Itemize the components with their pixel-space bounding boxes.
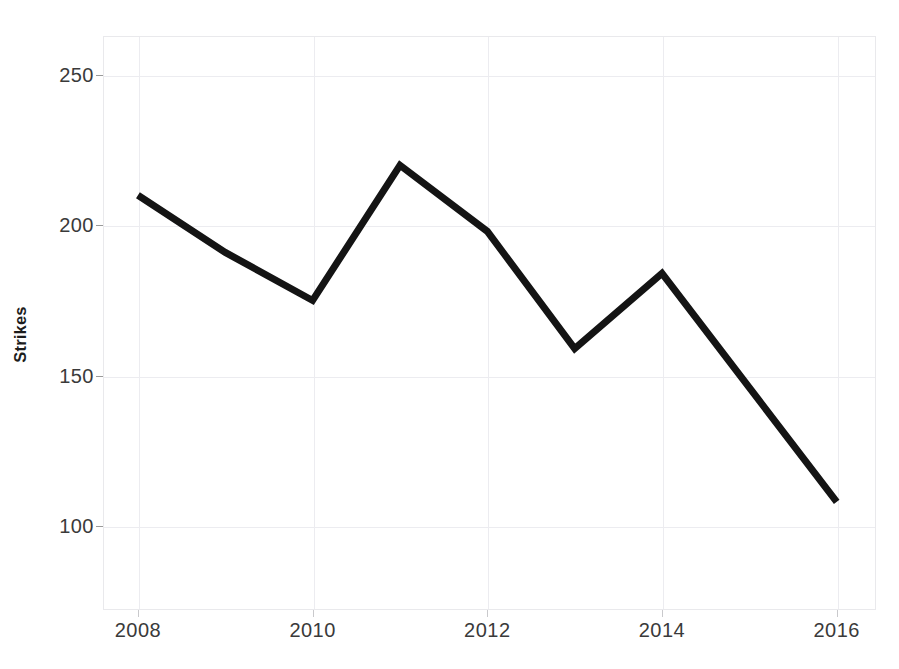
x-axis-tick-label: 2010: [253, 620, 373, 640]
line-chart: Strikes 100150200250 2008201020122014201…: [0, 0, 899, 669]
y-axis-tick-mark: [96, 526, 103, 527]
gridline-vertical: [139, 37, 140, 609]
x-axis-tick-label: 2012: [427, 620, 547, 640]
x-axis-tick-mark: [837, 610, 838, 617]
y-axis-title: Strikes: [0, 0, 40, 669]
gridline-horizontal: [104, 76, 875, 77]
y-axis-tick-mark: [96, 376, 103, 377]
y-axis-tick-label: 100: [32, 516, 94, 536]
x-axis-tick-mark: [487, 610, 488, 617]
y-axis-tick-mark: [96, 75, 103, 76]
y-axis-tick-label: 200: [32, 215, 94, 235]
gridline-horizontal: [104, 226, 875, 227]
x-axis-tick-label: 2008: [78, 620, 198, 640]
plot-area: [103, 36, 876, 610]
x-axis-tick-label: 2014: [602, 620, 722, 640]
x-axis-tick-mark: [138, 610, 139, 617]
x-axis-tick-labels: 20082010201220142016: [0, 620, 899, 650]
gridline-horizontal: [104, 527, 875, 528]
x-axis-tick-label: 2016: [777, 620, 897, 640]
y-axis-tick-label: 250: [32, 65, 94, 85]
x-axis-tick-mark: [662, 610, 663, 617]
y-axis-tick-mark: [96, 225, 103, 226]
gridline-horizontal: [104, 377, 875, 378]
gridline-vertical: [488, 37, 489, 609]
gridline-vertical: [663, 37, 664, 609]
gridline-vertical: [314, 37, 315, 609]
y-axis-tick-label: 150: [32, 366, 94, 386]
x-axis-tick-mark: [313, 610, 314, 617]
gridline-vertical: [838, 37, 839, 609]
